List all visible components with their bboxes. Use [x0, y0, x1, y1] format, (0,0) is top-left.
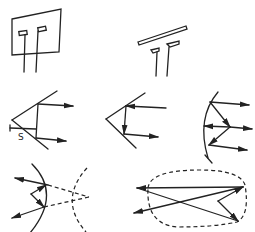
reflector-upper-plate: [12, 91, 57, 120]
ray-upper-in: [126, 106, 166, 108]
reflector-curve: [30, 164, 47, 232]
ray-lower-out: [12, 207, 44, 218]
feed-line-right: [167, 47, 169, 76]
ray-upper-out: [38, 104, 73, 106]
corner-reflector: [106, 93, 166, 148]
ellipsoidal-reflector: [134, 155, 246, 227]
dipole-left-element: [19, 30, 27, 35]
dipole-right-element: [38, 26, 47, 32]
virtual-ray-lower: [44, 197, 89, 207]
feed-line-right: [36, 31, 38, 72]
ray-upper-out: [210, 102, 249, 105]
spacing-label: S: [18, 132, 24, 142]
ray-lower-out: [36, 138, 66, 141]
ray-left-to-bottom: [137, 188, 238, 221]
ray-upper-in: [210, 102, 230, 127]
ray-lower-in: [209, 127, 230, 145]
dipole-left-element: [151, 48, 159, 53]
ray-lower-in: [31, 194, 44, 207]
ray-middle-in: [204, 126, 230, 127]
corner-reflector-with-spacing: S: [10, 91, 73, 149]
virtual-ray-upper: [48, 185, 89, 197]
reflector-lower-plate: [106, 119, 136, 148]
ray-middle-out: [230, 127, 252, 129]
stray-mark: [205, 155, 212, 163]
ray-vertical: [124, 106, 126, 134]
antenna-reflector-diagram: S: [0, 0, 255, 232]
dipole-rod-reflector: [138, 26, 187, 76]
dipole-right-element: [167, 41, 179, 47]
ray-lower-out: [124, 134, 158, 137]
dipole-plane-reflector: [12, 9, 61, 72]
ray-top-to-left: [137, 187, 243, 188]
parabolic-reflector: [204, 92, 252, 158]
feed-line-left: [24, 35, 25, 72]
feed-line-left: [156, 52, 157, 76]
spacing-dimension: [10, 128, 36, 129]
ray-vertical: [36, 104, 38, 138]
hyperbolic-reflector-virtual-focus: [12, 164, 89, 232]
ray-focus-to-top: [218, 187, 243, 201]
ray-upper-in: [31, 185, 46, 194]
ray-lower-out: [209, 145, 247, 150]
